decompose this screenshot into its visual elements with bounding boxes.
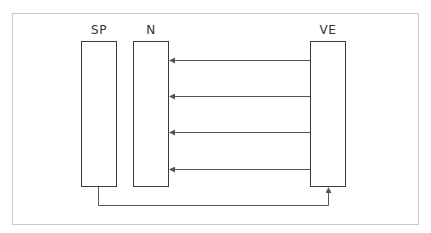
edge-sp-to-ve (99, 187, 329, 206)
edges-layer (0, 0, 431, 233)
